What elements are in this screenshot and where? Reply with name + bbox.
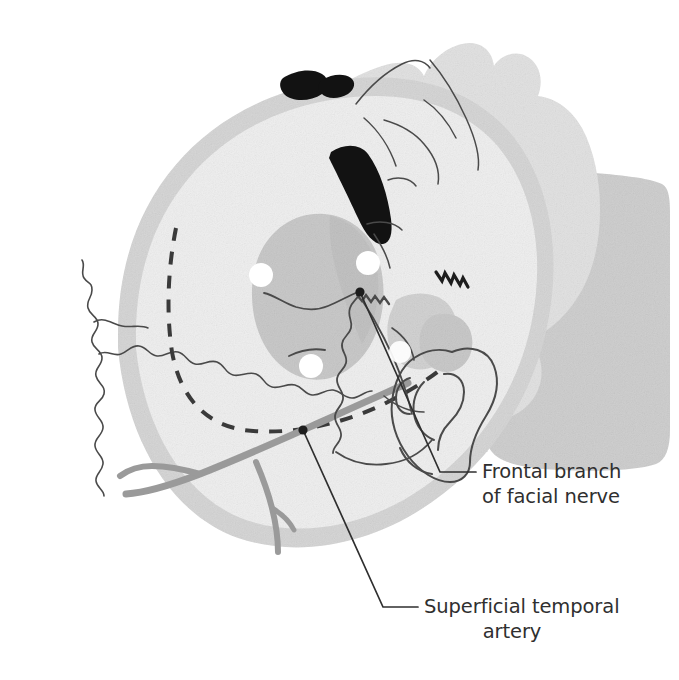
landmark-anterior-temporal (249, 263, 273, 287)
anatomical-figure: Frontal branch of facial nerve Superfici… (0, 0, 679, 680)
landmark-supraorbital (356, 251, 380, 275)
landmark-zygomatic-root (299, 354, 323, 378)
label-superficial-temporal-artery-line1: Superficial temporal (424, 595, 619, 618)
label-frontal-branch-line2: of facial nerve (482, 485, 620, 508)
nerve-anchor-dot (355, 287, 364, 296)
label-superficial-temporal-artery-line2: artery (483, 620, 542, 643)
artery-anchor-dot (298, 425, 307, 434)
landmark-preauricular (389, 341, 411, 363)
illustration-canvas: Frontal branch of facial nerve Superfici… (0, 0, 679, 680)
label-frontal-branch-line1: Frontal branch (482, 460, 621, 483)
